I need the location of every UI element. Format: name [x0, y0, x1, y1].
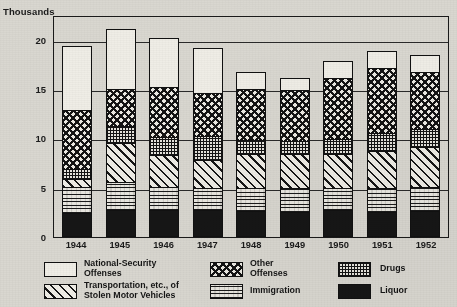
bar-1948[interactable] [236, 72, 266, 237]
bar-segment-1944-drugs [63, 169, 91, 179]
bar-segment-1947-other-offenses [194, 93, 222, 136]
bar-segment-1945-transportation-etc-of-stolen-motor-vehicles [107, 143, 135, 181]
bar-segment-1946-immigration [150, 187, 178, 211]
bar-segment-1952-liquor [411, 211, 439, 236]
bar-segment-1947-transportation-etc-of-stolen-motor-vehicles [194, 160, 222, 188]
bar-segment-1947-immigration [194, 188, 222, 211]
y-axis-tick-10: 10 [10, 133, 46, 144]
bar-segment-1949-national-security-offenses [281, 79, 309, 90]
bar-segment-1947-national-security-offenses [194, 49, 222, 93]
legend-swatch-other-offenses [210, 262, 243, 277]
legend-label-liquor: Liquor [380, 286, 448, 296]
bar-segment-1944-other-offenses [63, 110, 91, 169]
bar-segment-1951-liquor [368, 212, 396, 236]
bar-segment-1947-liquor [194, 210, 222, 236]
legend-swatch-drugs [338, 262, 371, 277]
bar-segment-1951-immigration [368, 188, 396, 213]
x-tick-1944: 1944 [61, 240, 91, 256]
legend-label-transportation-etc-of-stolen-motor-vehicles: Transportation, etc., ofStolen Motor Veh… [84, 281, 206, 301]
y-axis-tick-5: 5 [10, 183, 46, 194]
bar-segment-1951-drugs [368, 133, 396, 151]
x-tick-1950: 1950 [324, 240, 354, 256]
legend-label-immigration: Immigration [250, 286, 334, 296]
plot-area [53, 16, 449, 238]
bar-segment-1949-transportation-etc-of-stolen-motor-vehicles [281, 154, 309, 188]
bar-segment-1945-liquor [107, 210, 135, 236]
bar-group [54, 17, 448, 237]
bar-segment-1950-other-offenses [324, 78, 352, 139]
legend-label-national-security-offenses: National-SecurityOffenses [84, 259, 206, 279]
bar-segment-1952-national-security-offenses [411, 56, 439, 73]
legend-swatch-national-security-offenses [44, 262, 77, 277]
bar-segment-1944-national-security-offenses [63, 47, 91, 110]
bar-segment-1950-transportation-etc-of-stolen-motor-vehicles [324, 154, 352, 188]
legend-swatch-immigration [210, 284, 243, 299]
bar-1952[interactable] [410, 55, 440, 238]
bar-1947[interactable] [193, 48, 223, 237]
bar-segment-1948-transportation-etc-of-stolen-motor-vehicles [237, 154, 265, 188]
y-axis-tick-0: 0 [10, 232, 46, 243]
bar-segment-1952-immigration [411, 187, 439, 212]
bar-segment-1945-other-offenses [107, 89, 135, 126]
bar-segment-1949-drugs [281, 141, 309, 154]
bar-segment-1945-national-security-offenses [107, 30, 135, 89]
stacked-bar-chart: Thousands 05101520 194419451946194719481… [0, 0, 457, 307]
bar-segment-1944-liquor [63, 213, 91, 236]
legend-label-drugs: Drugs [380, 264, 448, 274]
y-axis-tick-15: 15 [10, 84, 46, 95]
bar-segment-1952-transportation-etc-of-stolen-motor-vehicles [411, 147, 439, 186]
chart-legend: National-SecurityOffensesOtherOffensesDr… [44, 258, 448, 304]
bar-segment-1947-drugs [194, 136, 222, 160]
bar-segment-1946-national-security-offenses [150, 39, 178, 87]
legend-swatch-transportation-etc-of-stolen-motor-vehicles [44, 284, 77, 299]
bar-1949[interactable] [280, 78, 310, 237]
bar-segment-1950-national-security-offenses [324, 62, 352, 78]
bar-1946[interactable] [149, 38, 179, 237]
bar-1950[interactable] [323, 61, 353, 237]
legend-label-other-offenses: OtherOffenses [250, 259, 334, 279]
x-tick-1946: 1946 [149, 240, 179, 256]
bar-segment-1946-other-offenses [150, 87, 178, 137]
bar-segment-1952-drugs [411, 129, 439, 148]
bar-segment-1950-liquor [324, 210, 352, 236]
bar-segment-1948-drugs [237, 140, 265, 154]
bar-segment-1948-national-security-offenses [237, 73, 265, 89]
y-axis-tick-20: 20 [10, 35, 46, 46]
bar-1951[interactable] [367, 51, 397, 237]
bar-segment-1948-immigration [237, 188, 265, 212]
bar-segment-1946-transportation-etc-of-stolen-motor-vehicles [150, 155, 178, 187]
bar-segment-1946-liquor [150, 210, 178, 236]
x-tick-1945: 1945 [105, 240, 135, 256]
x-axis-tick-labels: 194419451946194719481949195019511952 [53, 240, 449, 256]
legend-swatch-liquor [338, 284, 371, 299]
bar-segment-1948-other-offenses [237, 89, 265, 140]
bar-segment-1951-national-security-offenses [368, 52, 396, 69]
bar-segment-1952-other-offenses [411, 72, 439, 128]
bar-segment-1948-liquor [237, 211, 265, 236]
x-tick-1951: 1951 [367, 240, 397, 256]
bar-1944[interactable] [62, 46, 92, 237]
bar-segment-1944-immigration [63, 187, 91, 214]
bar-1945[interactable] [106, 29, 136, 237]
bar-segment-1949-liquor [281, 212, 309, 236]
bar-segment-1951-transportation-etc-of-stolen-motor-vehicles [368, 151, 396, 188]
y-axis: 05101520 [10, 0, 46, 307]
bar-segment-1951-other-offenses [368, 68, 396, 133]
bar-segment-1945-immigration [107, 182, 135, 211]
bar-segment-1950-drugs [324, 139, 352, 154]
bar-segment-1946-drugs [150, 137, 178, 155]
bar-segment-1945-drugs [107, 126, 135, 144]
x-tick-1947: 1947 [192, 240, 222, 256]
x-tick-1949: 1949 [280, 240, 310, 256]
bar-segment-1944-transportation-etc-of-stolen-motor-vehicles [63, 179, 91, 187]
bar-segment-1949-other-offenses [281, 90, 309, 141]
bar-segment-1950-immigration [324, 188, 352, 211]
bar-segment-1949-immigration [281, 188, 309, 213]
x-tick-1952: 1952 [411, 240, 441, 256]
x-tick-1948: 1948 [236, 240, 266, 256]
